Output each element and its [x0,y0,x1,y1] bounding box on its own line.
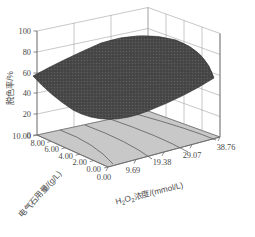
x-tick-label: 19.38 [153,158,172,167]
y-tick-label: 2.00 [72,158,87,167]
y-tick-label: 10.00 [12,132,31,141]
z-axis-title: 脱色率/% [5,71,15,105]
z-tick-label: 80 [23,48,31,57]
x-tick-label: 9.69 [126,166,141,175]
z-tick-labels: 100 80 60 40 20 0 [19,27,31,140]
plot-canvas: 100 80 60 40 20 0 脱色率/% [0,0,255,237]
x-tick-label: 38.76 [217,143,236,152]
z-tick-label: 20 [23,110,31,119]
y-axis-title-text: 电气石用量/(g/L) [16,168,63,219]
svg-text:H2O2浓度/(mmol/L): H2O2浓度/(mmol/L) [114,180,184,208]
y-axis-title: 电气石用量/(g/L) [16,168,63,219]
x-tick-label: 0.00 [97,173,112,182]
y-tick-label: 8.00 [30,139,45,148]
y-tick-label: 4.00 [58,152,73,161]
x-tick-label: 29.07 [183,151,202,160]
surface-mesh [33,36,216,120]
y-tick-label: 6.00 [44,145,59,154]
z-axis-spine [34,31,38,135]
x-axis-title: H2O2浓度/(mmol/L) [114,180,184,208]
surface-patch [33,36,214,120]
y-tick-label: 0.00 [86,165,101,174]
z-tick-label: 60 [23,69,31,78]
z-axis-title-text: 脱色率/% [5,71,15,105]
z-tick-label: 40 [23,89,31,98]
response-surface-figure: 100 80 60 40 20 0 脱色率/% [0,0,255,237]
z-tick-label: 100 [19,27,31,36]
x-axis-title-tail: 浓度/(mmol/L) [133,180,185,202]
